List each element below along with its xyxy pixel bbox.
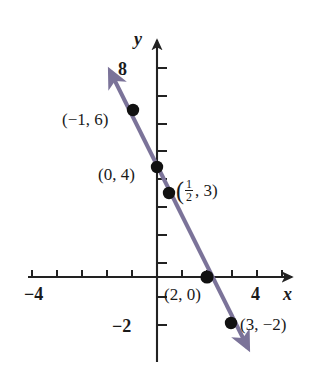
x-axis-label: x xyxy=(283,285,292,303)
fraction-label-rest: , 3) xyxy=(195,182,218,199)
x-tick-label-minus-4: −4 xyxy=(24,285,43,303)
fraction-denominator: 2 xyxy=(185,190,193,203)
data-point xyxy=(127,104,139,116)
point-label-0-4: (0, 4) xyxy=(98,166,135,183)
point-label-3-minus2: (3, −2) xyxy=(240,316,286,333)
x-tick-label-4: 4 xyxy=(251,285,260,303)
data-point xyxy=(225,317,237,329)
y-axis xyxy=(157,40,167,362)
fraction-coordinate-label: ( 1 2 , 3) xyxy=(176,178,218,203)
point-label-half-3: ( 1 2 , 3) xyxy=(176,178,218,203)
data-point xyxy=(151,161,163,173)
fraction-numerator: 1 xyxy=(185,178,193,190)
data-point xyxy=(163,187,175,199)
point-label-2-0: (2, 0) xyxy=(164,286,201,303)
y-tick-label-minus-2: −2 xyxy=(112,317,131,335)
fraction-one-half: 1 2 xyxy=(185,178,193,203)
x-axis xyxy=(28,270,292,277)
data-point xyxy=(200,270,213,283)
y-tick-label-8: 8 xyxy=(118,60,127,78)
open-paren: ( xyxy=(176,178,184,203)
y-axis-label: y xyxy=(134,30,142,48)
graph-figure: y x 8 −2 −4 4 (−1, 6) (0, 4) ( 1 2 , 3) … xyxy=(0,0,312,383)
point-label-minus1-6: (−1, 6) xyxy=(62,111,108,128)
